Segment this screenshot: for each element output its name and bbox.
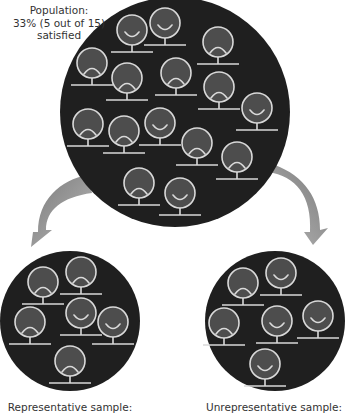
population-label-line3: satisfied xyxy=(0,29,118,42)
sampling-diagram xyxy=(0,0,345,415)
population-label-line1: Population: xyxy=(0,4,118,17)
population-label: Population: 33% (5 out of 15) satisfied xyxy=(0,4,118,42)
unrepresentative-sample-label: Unrepresentative sample: xyxy=(203,401,345,414)
arrow-to-representative-icon xyxy=(31,175,92,247)
representative-sample-label: Representative sample: xyxy=(0,401,140,414)
arrow-to-unrepresentative-icon xyxy=(268,165,328,245)
population-label-line2: 33% (5 out of 15) xyxy=(0,17,118,30)
